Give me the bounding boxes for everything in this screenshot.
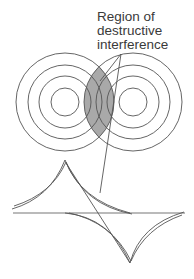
interfering-waves <box>12 160 184 263</box>
destructive-region <box>84 53 182 151</box>
interference-diagram <box>0 0 194 279</box>
